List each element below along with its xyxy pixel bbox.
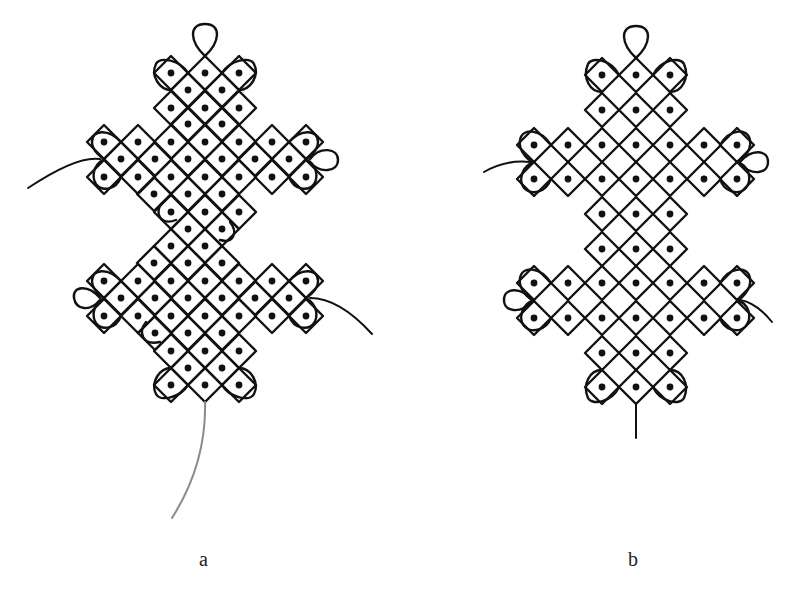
pulli-dot [303, 313, 310, 320]
kolam-figure [0, 0, 799, 591]
pulli-dot [219, 87, 226, 94]
panel-b-label: b [628, 548, 638, 571]
top-loop [624, 26, 648, 58]
pulli-dot [168, 382, 175, 389]
pulli-dot [599, 176, 606, 183]
pulli-dot [734, 280, 741, 287]
pulli-dot [599, 246, 606, 253]
pulli-dot [633, 142, 640, 149]
pulli-dot [219, 295, 226, 302]
pulli-dot [219, 226, 226, 233]
pulli-dot [599, 72, 606, 79]
pulli-dot [152, 330, 159, 337]
pulli-dot [152, 295, 159, 302]
pulli-dot [667, 211, 674, 218]
pulli-dot [219, 156, 226, 163]
pulli-dot [151, 191, 158, 198]
pulli-dot [633, 384, 640, 391]
pulli-dot [531, 280, 538, 287]
pulli-dot [667, 176, 674, 183]
pulli-dot [599, 350, 606, 357]
pulli-dot [667, 280, 674, 287]
pulli-dot [236, 105, 243, 112]
pulli-dot [101, 278, 108, 285]
pulli-dot [236, 348, 243, 355]
pulli-dot [135, 278, 142, 285]
pulli-dot [599, 107, 606, 114]
pulli-dot [734, 142, 741, 149]
pulli-dot [185, 87, 192, 94]
pulli-dot [219, 260, 226, 267]
pulli-dot [303, 174, 310, 181]
pulli-dot [185, 260, 192, 267]
pulli-dot [236, 278, 243, 285]
pulli-dot [202, 382, 209, 389]
pulli-dot [168, 174, 175, 181]
pulli-dot [168, 105, 175, 112]
pulli-dot [599, 384, 606, 391]
pulli-dot [633, 315, 640, 322]
panel-b-lattice [517, 58, 754, 404]
pulli-dot [236, 139, 243, 146]
pulli-dot [168, 70, 175, 77]
pulli-dot [185, 365, 192, 372]
pulli-dot [269, 139, 276, 146]
pulli-dot [633, 246, 640, 253]
pulli-dot [202, 313, 209, 320]
pulli-dot [252, 156, 259, 163]
pulli-dot [633, 107, 640, 114]
pulli-dot [151, 260, 158, 267]
pulli-dot [667, 72, 674, 79]
pulli-dot [701, 315, 708, 322]
pulli-dot [734, 176, 741, 183]
pulli-dot [118, 295, 125, 302]
pulli-dot [202, 243, 209, 250]
pulli-dot [286, 156, 293, 163]
pulli-dot [667, 315, 674, 322]
panel-a-kolam [28, 24, 372, 518]
pulli-dot [565, 176, 572, 183]
pulli-dot [219, 121, 226, 128]
pulli-dot [202, 70, 209, 77]
pulli-dot [236, 70, 243, 77]
pulli-dot [667, 384, 674, 391]
pulli-dot [667, 107, 674, 114]
pulli-dot [236, 382, 243, 389]
panel-a-loops [28, 24, 372, 518]
pulli-dot [219, 191, 226, 198]
pulli-dot [633, 176, 640, 183]
pulli-dot [599, 315, 606, 322]
pulli-dot [236, 313, 243, 320]
pulli-dot [531, 142, 538, 149]
pulli-dot [303, 139, 310, 146]
pulli-dot [599, 280, 606, 287]
pulli-dot [667, 142, 674, 149]
pulli-dot [236, 174, 243, 181]
pulli-dot [286, 295, 293, 302]
panel-a-lattice [87, 56, 323, 402]
pulli-dot [185, 121, 192, 128]
pulli-dot [667, 350, 674, 357]
panel-b-loops [484, 26, 772, 438]
pulli-dot [269, 313, 276, 320]
pulli-dot [202, 209, 209, 216]
pulli-dot [633, 211, 640, 218]
pulli-dot [252, 295, 259, 302]
pulli-dot [701, 176, 708, 183]
pulli-dot [599, 142, 606, 149]
pulli-dot [185, 156, 192, 163]
panel-a-label: a [199, 548, 208, 571]
pulli-dot [565, 142, 572, 149]
pulli-dot [269, 174, 276, 181]
pulli-dot [185, 226, 192, 233]
pulli-dot [701, 280, 708, 287]
pulli-dot [219, 365, 226, 372]
pulli-dot [185, 330, 192, 337]
pulli-dot [118, 156, 125, 163]
pulli-dot [135, 139, 142, 146]
pulli-dot [219, 330, 226, 337]
pulli-dot [599, 211, 606, 218]
pulli-dot [531, 315, 538, 322]
pulli-dot [168, 209, 175, 216]
pulli-dot [633, 72, 640, 79]
